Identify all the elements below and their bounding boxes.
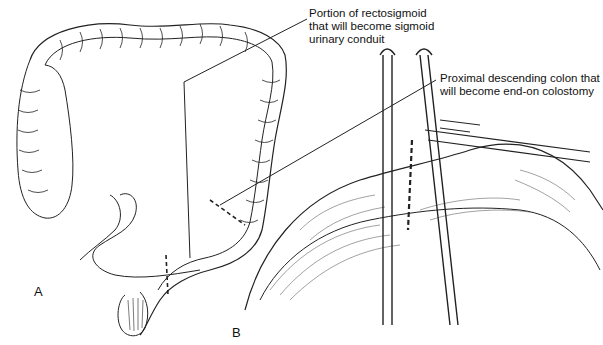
colon-illustration — [0, 0, 603, 345]
annotation-rectosigmoid: Portion of rectosigmoid that will become… — [309, 7, 434, 46]
operative-field — [245, 144, 603, 310]
retractor-1 — [383, 55, 392, 325]
annotation-descending-colon: Proximal descending colon that will beco… — [440, 72, 600, 98]
panel-label-b: B — [232, 325, 241, 340]
ascending-colon — [17, 60, 73, 218]
forceps — [425, 130, 590, 162]
panel-label-a: A — [34, 284, 43, 299]
transverse-colon — [30, 24, 286, 335]
